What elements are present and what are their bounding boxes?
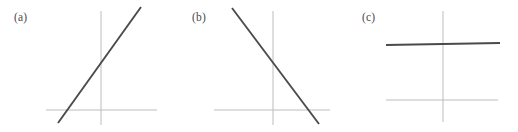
plot-c [0, 0, 518, 132]
figure-canvas: (a) (b) (c) [0, 0, 518, 132]
data-line-c [386, 43, 500, 45]
